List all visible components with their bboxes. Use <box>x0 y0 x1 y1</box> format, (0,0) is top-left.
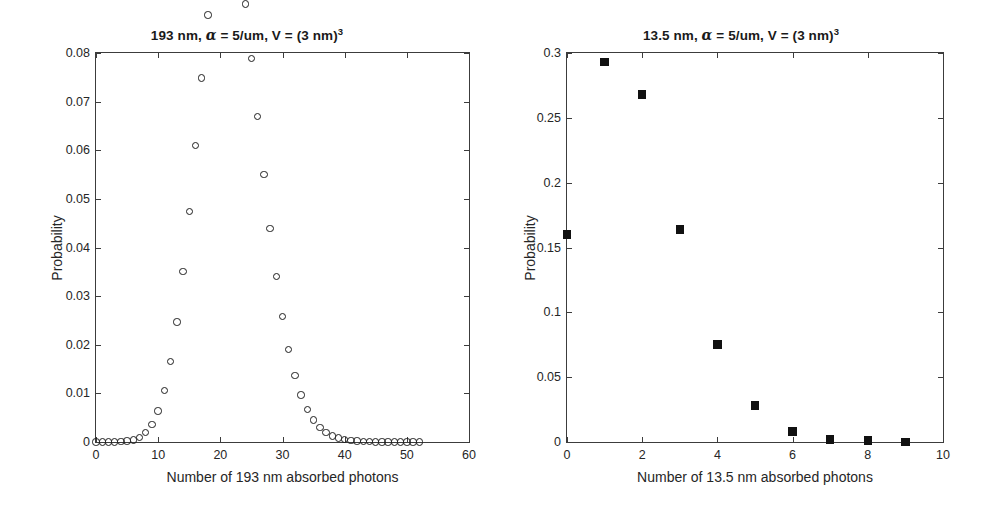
x-ticklabel-right-2: 4 <box>714 448 721 462</box>
data-point-left-31 <box>285 346 292 353</box>
plot-title-left: 193 nm, α = 5/um, V = (3 nm)3 <box>0 27 494 43</box>
x-tick-top-left-4 <box>345 53 346 58</box>
y-ticklabel-right-3: 0.15 <box>537 241 561 255</box>
y-tick-right-left-2 <box>464 345 469 346</box>
y-axis-label-right: Probability <box>522 215 538 280</box>
x-ticklabel-left-2: 20 <box>213 448 227 462</box>
data-point-right-6 <box>788 427 797 436</box>
y-tick-right-right-4 <box>938 183 943 184</box>
y-tick-left-1 <box>96 393 101 394</box>
y-tick-left-6 <box>96 150 101 151</box>
data-point-left-29 <box>273 273 280 280</box>
x-ticklabel-left-5: 50 <box>400 448 414 462</box>
data-point-left-16 <box>192 142 199 149</box>
data-point-left-17 <box>198 74 205 81</box>
alpha-symbol-left: α <box>206 27 217 43</box>
y-tick-right-left-5 <box>464 199 469 200</box>
data-point-left-33 <box>297 391 304 398</box>
x-tick-right-3 <box>793 437 794 442</box>
y-ticklabel-left-0: 0 <box>83 435 90 449</box>
data-point-right-9 <box>901 438 910 447</box>
y-tick-left-4 <box>96 248 101 249</box>
x-ticklabel-left-4: 40 <box>338 448 352 462</box>
y-ticklabel-left-2: 0.02 <box>66 338 90 352</box>
y-tick-right-4 <box>567 183 572 184</box>
data-point-left-25 <box>248 55 255 62</box>
y-tick-right-3 <box>567 248 572 249</box>
y-ticklabel-right-6: 0.3 <box>544 46 561 60</box>
data-point-right-8 <box>864 436 873 445</box>
data-point-left-26 <box>254 113 261 120</box>
y-tick-right-left-8 <box>464 53 469 54</box>
x-tick-top-right-4 <box>868 53 869 58</box>
data-point-left-10 <box>154 407 161 414</box>
x-tick-right-1 <box>642 437 643 442</box>
x-tick-left-1 <box>158 437 159 442</box>
figure-canvas: 193 nm, α = 5/um, V = (3 nm)3 Probabilit… <box>0 0 988 517</box>
y-ticklabel-left-1: 0.01 <box>66 386 90 400</box>
x-axis-label-right: Number of 13.5 nm absorbed photons <box>637 469 873 485</box>
axes-left: Probability Number of 193 nm absorbed ph… <box>95 52 470 443</box>
x-tick-top-left-5 <box>407 53 408 58</box>
y-tick-right-left-3 <box>464 296 469 297</box>
data-point-right-3 <box>676 225 685 234</box>
y-tick-right-left-6 <box>464 150 469 151</box>
data-point-left-12 <box>167 358 174 365</box>
x-axis-label-left: Number of 193 nm absorbed photons <box>167 469 399 485</box>
x-ticklabel-left-1: 10 <box>151 448 165 462</box>
axes-right: Probability Number of 13.5 nm absorbed p… <box>566 52 944 443</box>
x-ticklabel-right-0: 0 <box>564 448 571 462</box>
y-tick-right-left-0 <box>464 442 469 443</box>
y-tick-right-5 <box>567 118 572 119</box>
plot-title-right-exponent: 3 <box>834 26 839 37</box>
data-point-left-14 <box>179 268 186 275</box>
y-tick-left-7 <box>96 102 101 103</box>
y-ticklabel-right-0: 0 <box>554 435 561 449</box>
y-tick-right-right-2 <box>938 312 943 313</box>
x-tick-right-2 <box>717 437 718 442</box>
y-ticklabel-left-8: 0.08 <box>66 46 90 60</box>
data-point-right-5 <box>751 401 760 410</box>
plot-panel-right: 13.5 nm, α = 5/um, V = (3 nm)3 Probabili… <box>494 0 988 517</box>
y-tick-right-0 <box>567 442 572 443</box>
plot-title-left-prefix: 193 nm, <box>151 28 206 43</box>
y-tick-left-8 <box>96 53 101 54</box>
plot-title-right-middle: = 5/um, V = (3 nm) <box>712 28 833 43</box>
x-ticklabel-right-4: 8 <box>864 448 871 462</box>
data-point-left-13 <box>173 318 180 325</box>
y-tick-right-right-3 <box>938 248 943 249</box>
data-point-right-4 <box>713 340 722 349</box>
x-tick-top-left-3 <box>283 53 284 58</box>
y-ticklabel-left-7: 0.07 <box>66 95 90 109</box>
data-point-left-52 <box>416 438 423 445</box>
x-tick-right-5 <box>943 437 944 442</box>
x-ticklabel-right-3: 6 <box>789 448 796 462</box>
data-point-right-0 <box>563 230 572 239</box>
y-tick-right-left-7 <box>464 102 469 103</box>
plot-title-right-prefix: 13.5 nm, <box>643 28 702 43</box>
y-ticklabel-right-4: 0.2 <box>544 176 561 190</box>
alpha-symbol-right: α <box>702 27 713 43</box>
data-point-left-34 <box>304 406 311 413</box>
y-tick-left-5 <box>96 199 101 200</box>
data-point-left-9 <box>148 421 155 428</box>
data-point-left-18 <box>204 11 211 18</box>
y-ticklabel-left-5: 0.05 <box>66 192 90 206</box>
y-tick-left-2 <box>96 345 101 346</box>
data-point-left-32 <box>291 372 298 379</box>
y-ticklabel-right-2: 0.1 <box>544 305 561 319</box>
x-ticklabel-right-1: 2 <box>639 448 646 462</box>
x-tick-top-right-5 <box>943 53 944 58</box>
data-point-right-2 <box>638 90 647 99</box>
y-ticklabel-right-5: 0.25 <box>537 111 561 125</box>
y-ticklabel-right-1: 0.05 <box>537 370 561 384</box>
x-tick-top-right-1 <box>642 53 643 58</box>
y-ticklabel-left-6: 0.06 <box>66 143 90 157</box>
x-ticklabel-left-0: 0 <box>93 448 100 462</box>
x-ticklabel-left-3: 30 <box>276 448 290 462</box>
data-point-left-8 <box>142 429 149 436</box>
x-tick-top-left-6 <box>469 53 470 58</box>
x-tick-left-3 <box>283 437 284 442</box>
y-tick-right-2 <box>567 312 572 313</box>
x-tick-top-right-2 <box>717 53 718 58</box>
